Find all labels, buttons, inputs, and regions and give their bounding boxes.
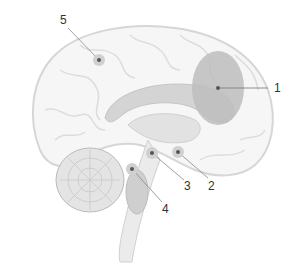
cerebellum-folia	[60, 150, 120, 210]
callout-label-3: 3	[184, 180, 191, 192]
callout-label-2: 2	[208, 180, 215, 192]
callout-label-5: 5	[60, 14, 67, 26]
brain-diagram	[0, 0, 301, 264]
callout-label-4: 4	[162, 203, 169, 215]
pons	[126, 170, 148, 214]
callout-label-1: 1	[274, 82, 281, 94]
